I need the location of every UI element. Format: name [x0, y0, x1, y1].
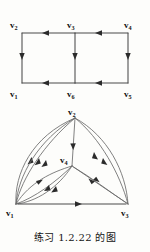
vertex-label-v6: v6 — [67, 89, 75, 100]
edge-v1-v4-b — [16, 166, 72, 204]
edge-v3-v2 — [22, 30, 75, 35]
edge-v3-v4 — [74, 167, 129, 204]
vertex-label-v1-lower: v1 — [6, 208, 14, 219]
vertex-label-v4: v4 — [124, 20, 132, 31]
edge-v1-v4-a — [16, 166, 72, 204]
top-graph-svg: v2 v3 v4 v1 v6 v5 — [0, 0, 150, 110]
vertex-label-v5: v5 — [124, 89, 132, 100]
edge-v4-v3 — [75, 30, 128, 35]
edge-v3-v6 — [72, 33, 77, 83]
edge-v3-v2-a — [75, 118, 128, 204]
edge-v2-v4 — [70, 118, 76, 166]
bottom-graph-svg: v2 v4 v1 v3 — [0, 108, 150, 220]
vertex-label-v3: v3 — [67, 20, 75, 31]
vertex-label-v3-lower: v3 — [121, 208, 129, 219]
vertex-label-v4-lower: v4 — [60, 155, 68, 166]
vertex-label-v2: v2 — [10, 20, 18, 31]
vertex-label-v1: v1 — [10, 89, 18, 100]
edge-v1-v3 — [18, 201, 126, 206]
edge-v4-v5 — [125, 33, 130, 83]
edge-v3-v2-b — [75, 118, 128, 204]
top-graph: v2 v3 v4 v1 v6 v5 — [0, 0, 150, 110]
bottom-graph: v2 v4 v1 v3 — [0, 108, 150, 218]
figure-caption: 练习 1.2.22 的图 — [0, 229, 150, 244]
figure-container: v2 v3 v4 v1 v6 v5 — [0, 0, 150, 252]
vertex-label-v2-lower: v2 — [68, 108, 76, 118]
edge-v4-v1 — [16, 166, 72, 204]
edge-v5-v6 — [75, 80, 128, 85]
edge-v2-v1 — [19, 33, 24, 83]
edge-v6-v1 — [22, 80, 75, 85]
